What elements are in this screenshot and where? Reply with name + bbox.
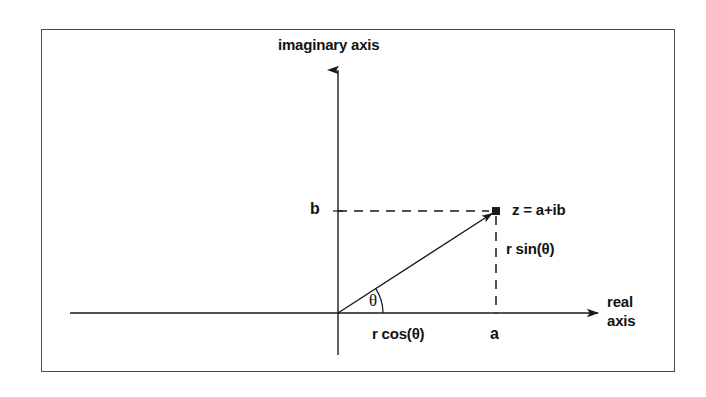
point-z-marker [492,207,500,215]
real-axis-label: real axis [607,292,635,330]
complex-plane-figure: imaginary axis real axis z = a+ib r sin(… [0,0,706,397]
opposite-leg-label: r sin(θ) [506,240,554,258]
adjacent-leg-label: r cos(θ) [372,325,424,343]
point-z-label: z = a+ib [512,201,565,219]
figure-drawing [0,0,706,397]
modulus-line [338,214,492,314]
real-part-label: a [490,325,499,344]
imaginary-axis-label: imaginary axis [278,36,379,54]
real-axis-label-line1: real [607,292,635,311]
imaginary-part-label: b [310,200,320,219]
real-axis-label-line2: axis [607,311,635,330]
angle-theta-label: θ [369,291,377,311]
